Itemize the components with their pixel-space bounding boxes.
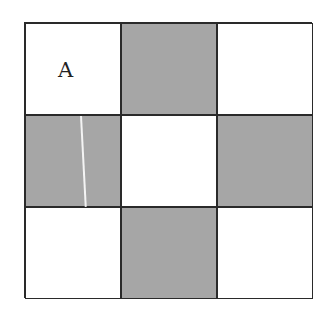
cell-r2-c2 — [217, 207, 313, 299]
cell-label-a: A — [58, 58, 73, 82]
cell-r0-c1 — [121, 23, 217, 115]
cell-r1-c2 — [217, 115, 313, 207]
cell-r1-c1 — [121, 115, 217, 207]
cell-r2-c0 — [25, 207, 121, 299]
cell-r2-c1 — [121, 207, 217, 299]
checkerboard-grid: A — [24, 22, 312, 298]
cell-r0-c2 — [217, 23, 313, 115]
cell-r1-c0 — [25, 115, 121, 207]
